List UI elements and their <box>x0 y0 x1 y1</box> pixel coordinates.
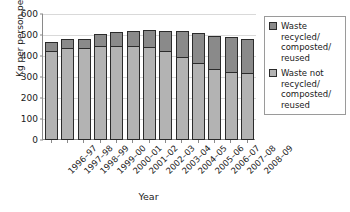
waste-per-person-stacked-bar-chart: Kg per person per year 01002003004005006… <box>0 0 350 212</box>
legend-item-not-recycled: Waste not recycled/ composted/ reused <box>269 68 342 110</box>
y-tick-label: 600 <box>21 9 43 19</box>
legend-swatch-recycled <box>269 22 277 30</box>
bar-segment-recycled[interactable] <box>45 42 58 50</box>
x-axis-tick-labels: 1996–971997–981998–991999–002000–012001–… <box>42 143 255 189</box>
bar-segment-recycled[interactable] <box>225 37 238 72</box>
bar-segment-not-recycled[interactable] <box>78 48 91 140</box>
bar-column[interactable] <box>159 14 172 140</box>
y-tick-label: 400 <box>21 51 43 61</box>
y-tick-label: 100 <box>21 114 43 124</box>
legend-swatch-not-recycled <box>269 69 277 77</box>
bar-segment-recycled[interactable] <box>159 31 172 51</box>
bar-column[interactable] <box>45 14 58 140</box>
bar-segment-not-recycled[interactable] <box>159 51 172 140</box>
bar-segment-recycled[interactable] <box>127 31 140 46</box>
bar-segment-not-recycled[interactable] <box>94 46 107 141</box>
bar-segment-recycled[interactable] <box>241 39 254 73</box>
y-tick-label: 500 <box>21 30 43 40</box>
bar-column[interactable] <box>208 14 221 140</box>
bar-segment-not-recycled[interactable] <box>61 48 74 140</box>
legend: Waste recycled/ composted/ reused Waste … <box>264 16 346 115</box>
bar-segment-recycled[interactable] <box>143 30 156 46</box>
y-tick-label: 200 <box>21 93 43 103</box>
bar-segment-not-recycled[interactable] <box>127 46 140 141</box>
bar-column[interactable] <box>61 14 74 140</box>
bar-column[interactable] <box>78 14 91 140</box>
bar-segment-recycled[interactable] <box>61 39 74 47</box>
plot-area: 0100200300400500600 <box>42 14 255 140</box>
bar-column[interactable] <box>241 14 254 140</box>
bar-segment-not-recycled[interactable] <box>225 72 238 140</box>
bar-segment-recycled[interactable] <box>110 32 123 45</box>
bar-segment-recycled[interactable] <box>78 39 91 48</box>
x-axis-title: Year <box>42 191 255 202</box>
bar-segment-recycled[interactable] <box>208 36 221 69</box>
bar-segment-not-recycled[interactable] <box>241 73 254 140</box>
bar-group <box>43 14 256 140</box>
bar-column[interactable] <box>127 14 140 140</box>
bar-segment-recycled[interactable] <box>192 33 205 63</box>
y-tick-label: 300 <box>21 72 43 82</box>
legend-label-not-recycled: Waste not recycled/ composted/ reused <box>281 68 342 110</box>
bar-column[interactable] <box>94 14 107 140</box>
bar-segment-recycled[interactable] <box>176 31 189 57</box>
bar-segment-not-recycled[interactable] <box>176 57 189 140</box>
bar-column[interactable] <box>110 14 123 140</box>
bar-segment-not-recycled[interactable] <box>143 47 156 140</box>
bar-segment-not-recycled[interactable] <box>192 63 205 140</box>
bar-column[interactable] <box>192 14 205 140</box>
legend-item-recycled: Waste recycled/ composted/ reused <box>269 21 342 63</box>
bar-column[interactable] <box>143 14 156 140</box>
legend-label-recycled: Waste recycled/ composted/ reused <box>281 21 342 63</box>
bar-column[interactable] <box>176 14 189 140</box>
bar-segment-not-recycled[interactable] <box>208 69 221 140</box>
bar-segment-not-recycled[interactable] <box>45 51 58 140</box>
bar-segment-not-recycled[interactable] <box>110 46 123 141</box>
bar-segment-recycled[interactable] <box>94 34 107 46</box>
bar-column[interactable] <box>225 14 238 140</box>
